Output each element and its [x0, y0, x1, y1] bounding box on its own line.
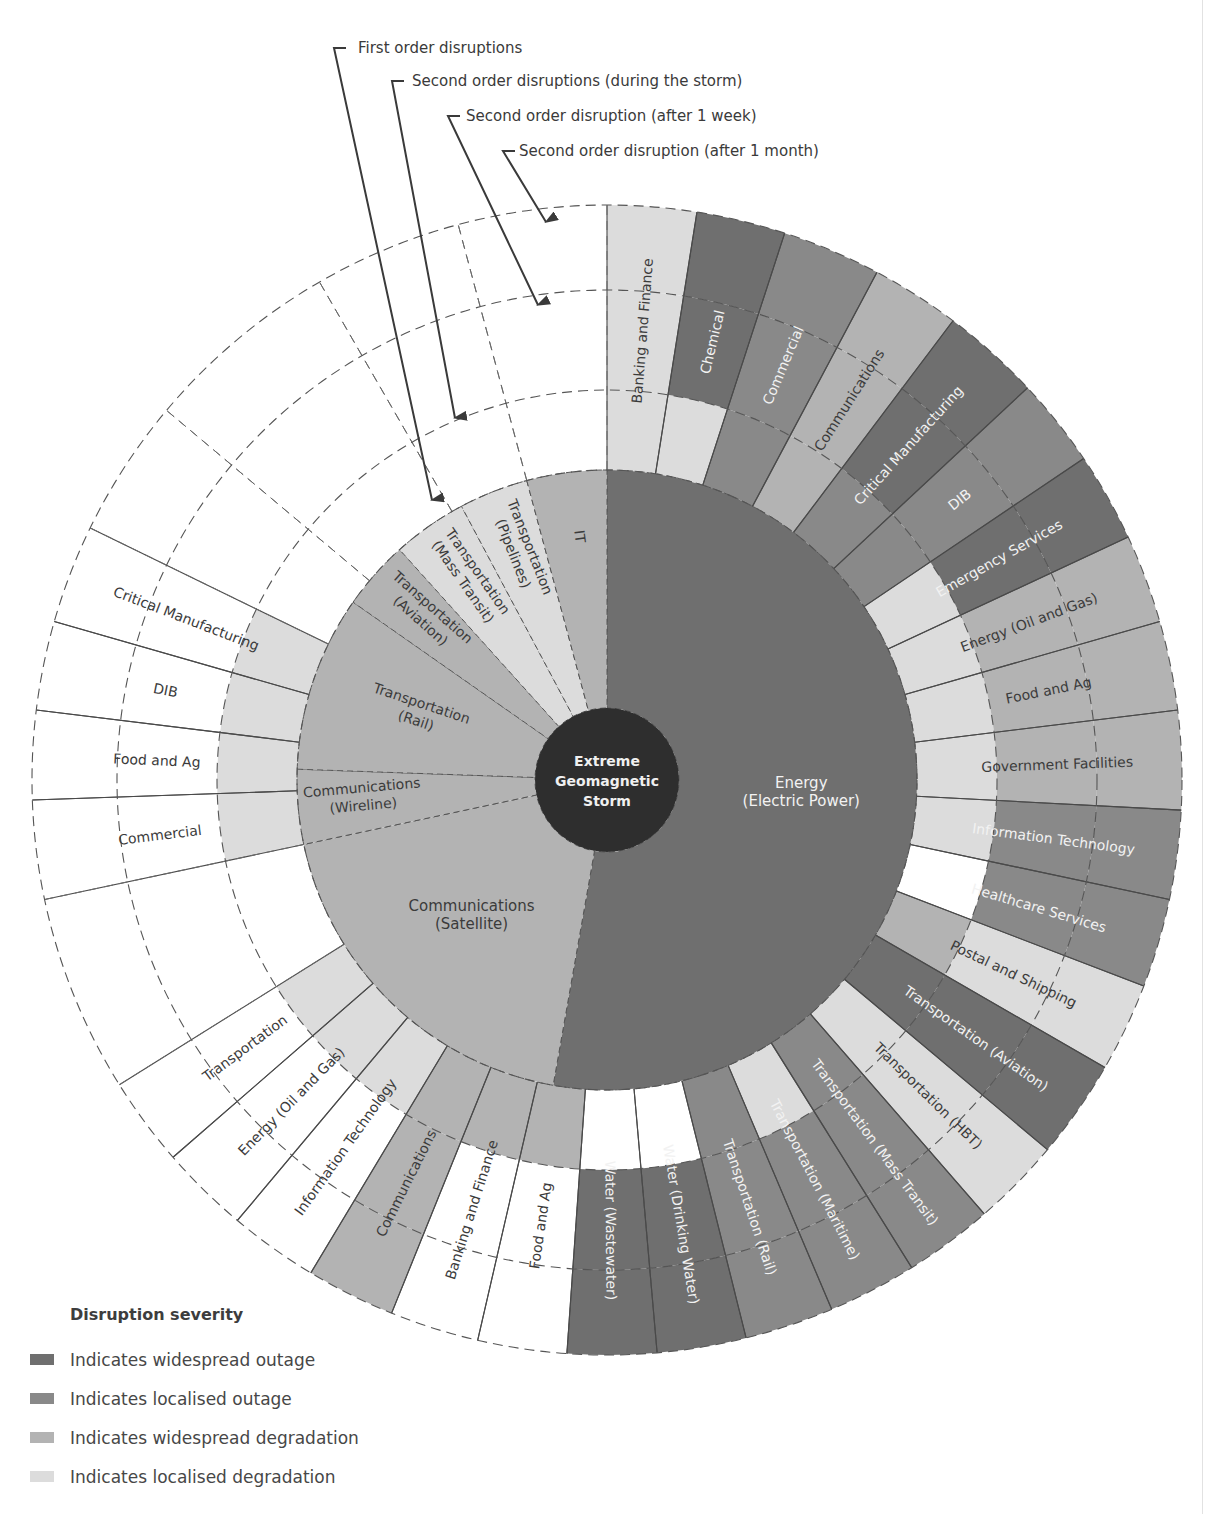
- segment-during-water-wastewater: [580, 1089, 641, 1170]
- legend-swatch: [30, 1354, 54, 1365]
- legend-swatch: [30, 1471, 54, 1482]
- legend-swatch: [30, 1432, 54, 1443]
- legend-item-widespread-outage: Indicates widespread outage: [30, 1340, 359, 1379]
- second-order-label-water-wastewater: Water (Wastewater): [602, 1161, 619, 1301]
- legend-label: Indicates widespread outage: [70, 1350, 315, 1370]
- page-edge-rule: [1202, 0, 1203, 1514]
- legend-title: Disruption severity: [70, 1305, 359, 1324]
- legend-label: Indicates localised degradation: [70, 1467, 336, 1487]
- callout-label-1: Second order disruptions (during the sto…: [412, 72, 742, 90]
- callout-label-0: First order disruptions: [358, 39, 523, 57]
- legend-label: Indicates localised outage: [70, 1389, 292, 1409]
- legend-label: Indicates widespread degradation: [70, 1428, 359, 1448]
- legend-item-localised-degradation: Indicates localised degradation: [30, 1457, 359, 1496]
- segment-month-food-and-ag: [32, 710, 121, 800]
- legend: Disruption severity Indicates widespread…: [30, 1305, 359, 1496]
- first-order-label-it: IT: [571, 529, 589, 544]
- callout-label-2: Second order disruption (after 1 week): [466, 107, 757, 125]
- legend-item-widespread-degradation: Indicates widespread degradation: [30, 1418, 359, 1457]
- center-node: ExtremeGeomagneticStorm: [535, 708, 679, 852]
- segment-month-commercial: [32, 797, 127, 899]
- sunburst-chart: Energy(Electric Power)Communications(Sat…: [0, 0, 1217, 1514]
- legend-item-localised-outage: Indicates localised outage: [30, 1379, 359, 1418]
- legend-swatch: [30, 1393, 54, 1404]
- callout-label-3: Second order disruption (after 1 month): [519, 142, 819, 160]
- segment-during-food-and-ag: [217, 732, 299, 793]
